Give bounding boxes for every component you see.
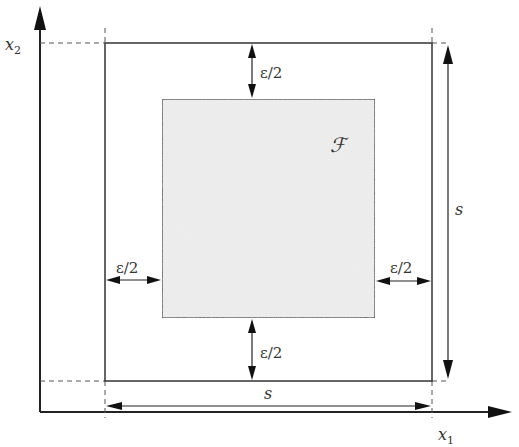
y-axis-label: x2 <box>5 35 21 57</box>
arrow-up-icon <box>248 44 256 58</box>
right-margin-label: ε/2 <box>390 259 412 277</box>
arrow-right-icon <box>417 277 431 285</box>
right-margin-dimension: ε/2 <box>376 259 431 285</box>
diagram-canvas: ℱ ε/2 ε/2 ε/2 ε/2 <box>0 0 519 447</box>
arrow-down-icon <box>248 366 256 380</box>
horizontal-side-label: s <box>264 384 272 403</box>
arrow-down-icon <box>443 360 453 379</box>
region-f <box>162 99 375 318</box>
bottom-margin-dimension: ε/2 <box>248 319 282 380</box>
arrow-up-icon <box>248 319 256 333</box>
x-axis <box>40 406 512 418</box>
top-margin-dimension: ε/2 <box>248 44 282 98</box>
x-axis-arrow-icon <box>488 406 512 418</box>
y-axis <box>34 6 46 412</box>
arrow-left-icon <box>106 402 122 410</box>
arrow-left-icon <box>376 277 390 285</box>
arrow-down-icon <box>248 84 256 98</box>
diagram-svg: ℱ ε/2 ε/2 ε/2 ε/2 <box>0 0 519 447</box>
x-axis-label: x1 <box>438 425 454 447</box>
arrow-right-icon <box>415 402 431 410</box>
bottom-margin-label: ε/2 <box>260 344 282 362</box>
vertical-side-dimension: s <box>443 45 463 379</box>
left-margin-dimension: ε/2 <box>106 259 161 284</box>
top-margin-label: ε/2 <box>260 64 282 82</box>
y-axis-arrow-icon <box>34 6 46 30</box>
arrow-left-icon <box>106 276 120 284</box>
arrow-up-icon <box>443 45 453 64</box>
horizontal-side-dimension: s <box>106 384 431 410</box>
vertical-side-label: s <box>455 200 463 219</box>
arrow-right-icon <box>147 276 161 284</box>
left-margin-label: ε/2 <box>116 259 138 277</box>
